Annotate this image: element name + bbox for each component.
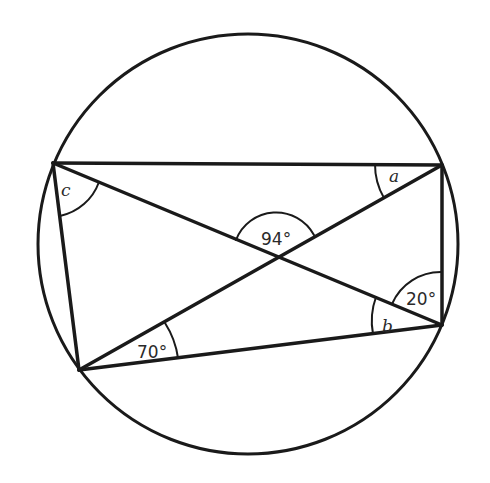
angle-label-94: 94° — [261, 229, 291, 249]
angle-label-70: 70° — [137, 342, 167, 362]
angle-arc-a — [375, 164, 384, 198]
cyclic-quadrilateral-diagram: c a 94° 20° b 70° — [0, 0, 490, 483]
side-top — [53, 163, 442, 165]
angle-label-b: b — [382, 316, 393, 336]
angle-label-c: c — [61, 180, 71, 200]
angle-label-a: a — [389, 166, 399, 186]
diagonal-tl-br — [53, 163, 442, 325]
angle-arc-b — [372, 297, 376, 334]
angle-label-20: 20° — [406, 289, 436, 309]
